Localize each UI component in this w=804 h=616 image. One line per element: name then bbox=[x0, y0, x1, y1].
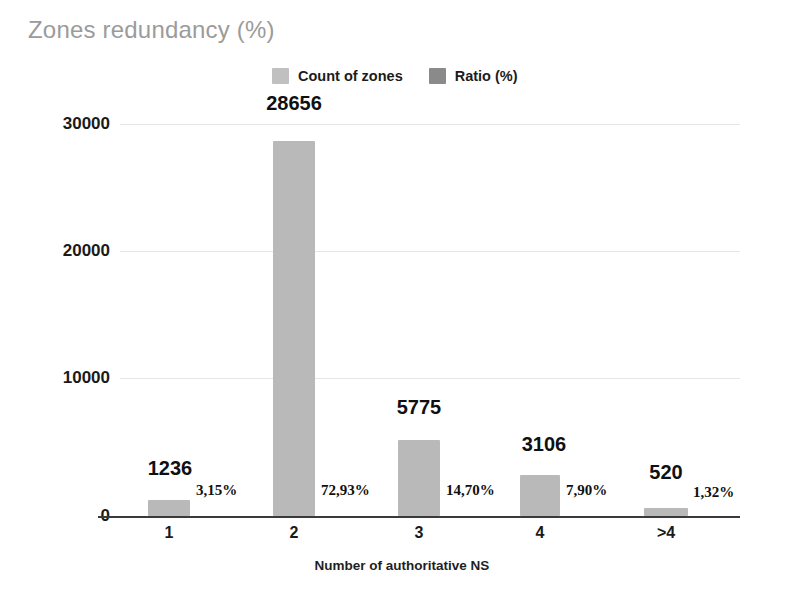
bar-category-5[interactable] bbox=[644, 508, 688, 516]
x-tick-gt4: >4 bbox=[657, 524, 675, 542]
x-axis-title: Number of authoritative NS bbox=[0, 558, 804, 573]
gridline-10000 bbox=[120, 378, 740, 379]
legend-label-ratio: Ratio (%) bbox=[455, 68, 518, 84]
ratio-label-category-1: 3,15% bbox=[196, 482, 237, 499]
y-tick-20000: 20000 bbox=[10, 241, 110, 261]
x-tick-4: 4 bbox=[536, 524, 545, 542]
x-tick-1: 1 bbox=[165, 524, 174, 542]
count-label-category-2: 28656 bbox=[266, 92, 322, 115]
bar-category-3[interactable] bbox=[398, 440, 440, 516]
chart-container: Zones redundancy (%) Count of zones Rati… bbox=[0, 0, 804, 616]
legend-item-ratio[interactable]: Ratio (%) bbox=[429, 68, 518, 84]
count-label-category-1: 1236 bbox=[148, 457, 193, 480]
legend-label-count-of-zones: Count of zones bbox=[298, 68, 403, 84]
count-label-category-4: 3106 bbox=[522, 433, 567, 456]
y-axis: 30000 20000 10000 0 bbox=[0, 118, 110, 518]
count-label-category-5: 520 bbox=[649, 461, 682, 484]
ratio-label-category-3: 14,70% bbox=[446, 482, 495, 499]
gridline-30000 bbox=[120, 124, 740, 125]
y-tick-0: 0 bbox=[10, 506, 110, 526]
x-tick-3: 3 bbox=[415, 524, 424, 542]
y-tick-30000: 30000 bbox=[10, 114, 110, 134]
count-label-category-3: 5775 bbox=[397, 396, 442, 419]
x-axis-line bbox=[98, 516, 740, 518]
ratio-label-category-2: 72,93% bbox=[321, 482, 370, 499]
chart-title: Zones redundancy (%) bbox=[28, 16, 275, 44]
plot-area: 1236 28656 5775 3106 520 3,15% 72,93% 14… bbox=[120, 118, 740, 518]
gridline-20000 bbox=[120, 251, 740, 252]
legend-item-count-of-zones[interactable]: Count of zones bbox=[272, 68, 403, 84]
x-tick-2: 2 bbox=[290, 524, 299, 542]
bar-category-4[interactable] bbox=[520, 475, 560, 516]
bar-category-1[interactable] bbox=[148, 500, 190, 516]
chart-legend: Count of zones Ratio (%) bbox=[272, 68, 518, 84]
bar-category-2[interactable] bbox=[273, 141, 315, 516]
ratio-label-category-4: 7,90% bbox=[566, 482, 607, 499]
ratio-label-category-5: 1,32% bbox=[693, 484, 734, 501]
legend-swatch-ratio bbox=[429, 68, 446, 84]
legend-swatch-count-of-zones bbox=[272, 68, 289, 84]
y-tick-10000: 10000 bbox=[10, 368, 110, 388]
